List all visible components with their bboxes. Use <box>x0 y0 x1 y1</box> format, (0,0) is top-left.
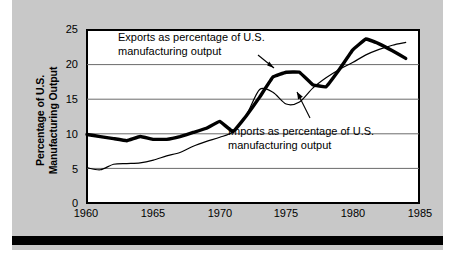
annotation-exports: Exports as percentage of U.S. manufactur… <box>118 31 265 58</box>
imports-arrowhead <box>297 92 303 99</box>
chart-figure: Percentage of U.S. Manufacturing Output … <box>0 0 457 254</box>
grid-lines <box>87 65 419 169</box>
annotation-exports-line1: Exports as percentage of U.S. <box>118 31 265 45</box>
annotation-imports-line1: Imports as percentage of U.S. <box>228 125 374 139</box>
annotation-imports-line2: manufacturing output <box>228 139 374 153</box>
annotation-exports-line2: manufacturing output <box>118 45 265 59</box>
annotation-imports: Imports as percentage of U.S. manufactur… <box>228 125 374 152</box>
